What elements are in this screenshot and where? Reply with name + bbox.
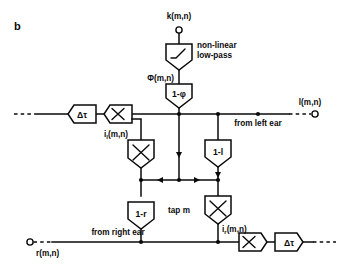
i-right-label: ir(m,n) (222, 225, 247, 235)
wire-mult-top-to-mult-mid (132, 119, 141, 140)
nonlinear-lowpass-block[interactable] (166, 44, 192, 70)
one-minus-r-label: 1-r (136, 209, 148, 219)
arrow-oneminusl-down (215, 172, 221, 178)
l-output-terminal[interactable] (312, 111, 318, 117)
k-input-terminal[interactable] (176, 27, 182, 33)
multiplier-mid-left[interactable] (128, 140, 154, 168)
one-minus-l-label: 1-l (213, 147, 223, 157)
phi-label: Φ(m,n) (147, 74, 174, 83)
feedback-top-to-mid (132, 119, 141, 140)
k-input-branch (176, 27, 182, 44)
arrow-central-down (176, 152, 182, 158)
from-right-ear-text: from right ear (91, 228, 145, 237)
junction-top-center (177, 112, 181, 116)
from-left-ear-label: from left ear (234, 119, 282, 128)
delay-bottom-label: Δτ (284, 238, 294, 248)
i-right-args: (m,n) (227, 225, 247, 234)
mid-left-output (139, 168, 143, 196)
panel-label: b (14, 20, 21, 32)
delay-top-label: Δτ (77, 110, 87, 120)
diagram-canvas: b k(m,n) non-linear low-pass Φ(m,n) 1-φ … (0, 0, 342, 265)
l-output-label: l(m,n) (299, 98, 322, 107)
i-left-label: il(m,n) (104, 130, 128, 140)
multiplier-bottom-right[interactable] (239, 233, 267, 251)
nonlinear-label-line1: non-linear (197, 41, 237, 50)
signal-flow-diagram: b k(m,n) non-linear low-pass Φ(m,n) 1-φ … (0, 0, 342, 265)
junction-bus-center (177, 178, 181, 182)
nonlinear-label-line2: low-pass (197, 51, 232, 60)
top-signal-line (14, 111, 318, 117)
junction-bottom-left (139, 240, 143, 244)
multiplier-mid-right[interactable] (205, 196, 231, 242)
central-trunk (176, 108, 182, 180)
junction-top-right (256, 112, 260, 116)
one-minus-phi-label: 1-φ (172, 89, 186, 99)
arrow-bus-right (194, 177, 200, 183)
k-input-label: k(m,n) (167, 12, 192, 21)
r-input-terminal[interactable] (27, 239, 33, 245)
tap-label: tap m (168, 206, 190, 215)
multiplier-top-left[interactable] (104, 105, 132, 123)
junction-bottom-right (216, 240, 220, 244)
arrow-bus-left (157, 177, 163, 183)
i-left-args: (m,n) (108, 130, 128, 139)
r-input-label: r(m,n) (36, 249, 59, 258)
